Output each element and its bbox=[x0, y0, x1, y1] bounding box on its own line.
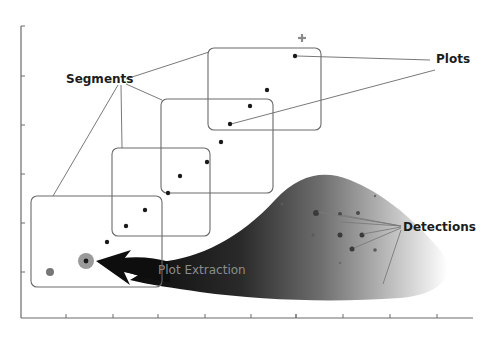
plots-label: Plots bbox=[436, 52, 470, 66]
detection-point bbox=[339, 262, 341, 264]
plot-point bbox=[219, 140, 223, 144]
detection-point bbox=[360, 233, 365, 238]
extracted-plot bbox=[78, 253, 94, 269]
detection-diagram: Plot Extraction Detections Segm bbox=[0, 0, 490, 337]
detection-point bbox=[281, 203, 284, 206]
detection-point bbox=[312, 234, 315, 237]
plot-point bbox=[293, 54, 297, 58]
plot-point bbox=[166, 191, 170, 195]
plot-point bbox=[105, 240, 109, 244]
x-axis bbox=[21, 314, 473, 318]
plot-point bbox=[248, 104, 252, 108]
detection-point bbox=[338, 233, 343, 238]
plot-point bbox=[178, 174, 182, 178]
predicted-position-cross-icon bbox=[298, 34, 306, 42]
detections-label: Detections bbox=[403, 220, 476, 234]
segments-label: Segments bbox=[66, 72, 133, 86]
plot-extraction-label: Plot Extraction bbox=[158, 263, 246, 277]
plot-point bbox=[124, 224, 128, 228]
previous-plot bbox=[46, 268, 54, 276]
segment-box bbox=[208, 48, 321, 130]
detection-point bbox=[313, 210, 319, 216]
segment-box bbox=[161, 99, 273, 193]
detection-point bbox=[350, 247, 355, 252]
detection-point bbox=[374, 195, 376, 197]
plot-point bbox=[143, 208, 147, 212]
plot-point bbox=[228, 122, 232, 126]
plot-point bbox=[205, 160, 209, 164]
detection-plume bbox=[130, 175, 448, 301]
detection-point bbox=[356, 211, 360, 215]
detection-point bbox=[373, 248, 377, 252]
plot-point bbox=[265, 88, 269, 92]
plots-leader-lines bbox=[231, 56, 435, 124]
y-axis bbox=[21, 26, 25, 318]
